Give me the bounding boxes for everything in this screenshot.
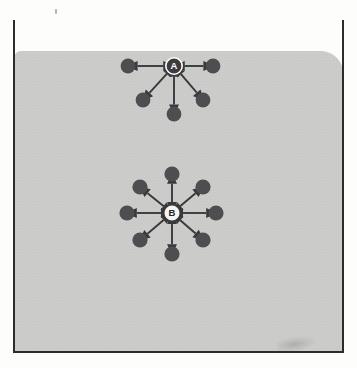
a-dot-bottom bbox=[167, 107, 182, 122]
bidirectional-arrow bbox=[181, 74, 197, 93]
b-dot-top-right bbox=[195, 179, 210, 194]
cluster-a-hub-node: A bbox=[166, 58, 182, 74]
cluster-b-hub-label: B bbox=[169, 207, 176, 218]
a-dot-lower-left bbox=[136, 93, 151, 108]
b-dot-bottom-right bbox=[195, 232, 210, 247]
b-dot-bottom-left bbox=[132, 232, 147, 247]
b-dot-top bbox=[164, 166, 179, 181]
bidirectional-arrow bbox=[149, 74, 167, 93]
b-dot-bottom bbox=[164, 246, 179, 261]
bidirectional-arrow bbox=[180, 220, 196, 234]
cluster-a: A bbox=[121, 58, 221, 122]
b-dot-top-left bbox=[132, 179, 147, 194]
a-dot-lower-right bbox=[196, 93, 211, 108]
b-dot-left bbox=[119, 205, 134, 220]
cluster-b-hub-node: B bbox=[164, 205, 181, 222]
a-dot-left bbox=[121, 59, 136, 74]
scanned-page: A B bbox=[0, 0, 357, 368]
b-dot-right bbox=[208, 205, 223, 220]
bidirectional-arrow bbox=[180, 193, 195, 206]
star-topology-diagram: A B bbox=[0, 0, 357, 368]
cluster-b: B bbox=[119, 166, 223, 261]
cluster-a-hub-label: A bbox=[171, 60, 178, 71]
bidirectional-arrow bbox=[147, 220, 163, 234]
bidirectional-arrow bbox=[148, 193, 164, 206]
a-dot-right bbox=[206, 59, 221, 74]
